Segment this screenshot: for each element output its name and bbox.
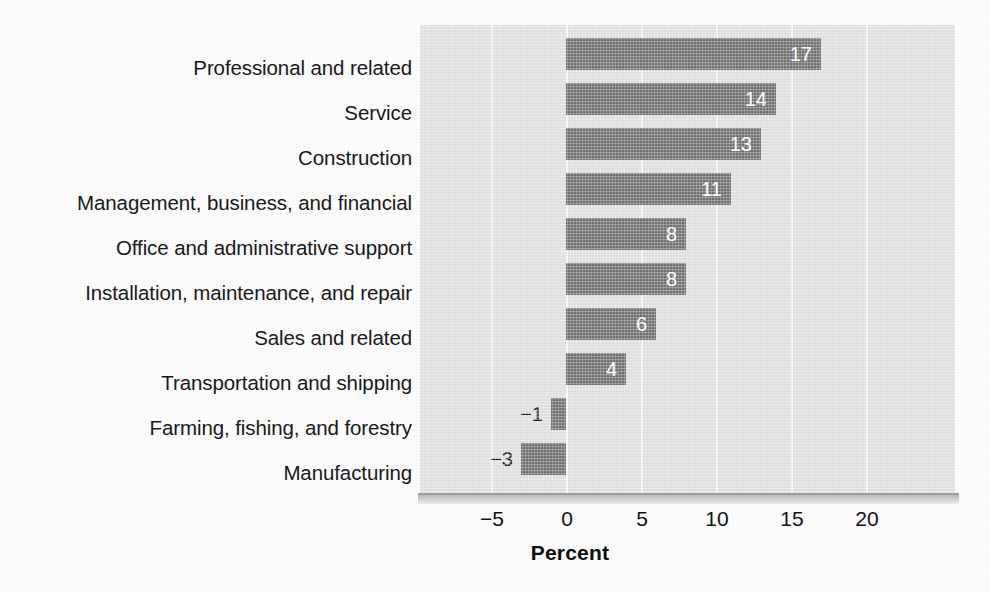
chart-figure: Professional and related Service Constru… bbox=[0, 0, 989, 592]
category-label: Farming, fishing, and forestry bbox=[0, 418, 412, 439]
bar-value-label: 8 bbox=[566, 218, 677, 250]
gridline-20 bbox=[866, 25, 868, 495]
x-tick-label: 5 bbox=[636, 506, 648, 531]
gridline-15 bbox=[791, 25, 793, 495]
bar-value-label: 14 bbox=[566, 83, 767, 115]
category-label: Office and administrative support bbox=[0, 238, 412, 259]
category-label: Service bbox=[0, 103, 412, 124]
category-label: Transportation and shipping bbox=[0, 373, 412, 394]
x-tick-label: 10 bbox=[705, 506, 728, 531]
value-axis: −5 0 5 10 15 20 bbox=[420, 506, 955, 536]
bar-value-label: −1 bbox=[481, 398, 543, 430]
category-axis: Professional and related Service Constru… bbox=[0, 25, 412, 495]
category-label: Sales and related bbox=[0, 328, 412, 349]
category-label: Manufacturing bbox=[0, 463, 412, 484]
x-tick-label: 0 bbox=[561, 506, 573, 531]
bar-value-label: 8 bbox=[566, 263, 677, 295]
bar-value-label: 13 bbox=[566, 128, 752, 160]
bar-value-label: 17 bbox=[566, 38, 812, 70]
bar-manufacturing[interactable] bbox=[521, 443, 566, 475]
x-tick-label: 15 bbox=[780, 506, 803, 531]
bar-farming-fishing-and-forestry[interactable] bbox=[551, 398, 566, 430]
x-axis-title: Percent bbox=[420, 541, 720, 565]
bar-value-label: 6 bbox=[566, 308, 647, 340]
category-label: Professional and related bbox=[0, 58, 412, 79]
plot-base-shelf bbox=[418, 495, 959, 504]
x-tick-label: −5 bbox=[480, 506, 504, 531]
x-tick-label: 20 bbox=[855, 506, 878, 531]
category-label: Management, business, and financial bbox=[0, 193, 412, 214]
category-label: Installation, maintenance, and repair bbox=[0, 283, 412, 304]
bar-value-label: 4 bbox=[566, 353, 617, 385]
bar-value-label: −3 bbox=[451, 443, 513, 475]
category-label: Construction bbox=[0, 148, 412, 169]
plot-area: 17 14 13 11 8 8 6 4 −1 −3 bbox=[420, 25, 955, 495]
bar-value-label: 11 bbox=[566, 173, 722, 205]
